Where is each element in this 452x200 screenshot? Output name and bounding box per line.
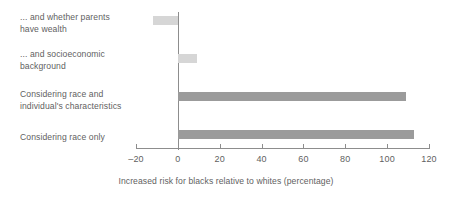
bar-race-only	[178, 130, 414, 139]
bar-chart: ... and whether parents have wealth ... …	[0, 0, 452, 200]
x-axis-tick-label: 20	[200, 154, 240, 164]
bar-socioeconomic-background	[178, 54, 197, 63]
x-axis-tick-label: –20	[116, 154, 156, 164]
x-axis-tick-label: 100	[367, 154, 407, 164]
x-axis-line	[136, 148, 429, 149]
x-axis-tick	[345, 144, 346, 149]
x-axis-tick	[136, 144, 137, 149]
x-axis-tick	[178, 144, 179, 149]
category-label-socioeconomic-background: ... and socioeconomic background	[20, 49, 150, 72]
x-axis-tick	[303, 144, 304, 149]
x-axis-tick-label: 60	[283, 154, 323, 164]
x-axis-tick-label: 120	[409, 154, 449, 164]
x-axis-tick	[220, 144, 221, 149]
x-axis-tick-label: 0	[158, 154, 198, 164]
x-axis-tick-label: 40	[242, 154, 282, 164]
bar-race-and-characteristics	[178, 92, 406, 101]
x-axis-caption: Increased risk for blacks relative to wh…	[0, 176, 452, 186]
category-label-race-only: Considering race only	[20, 132, 150, 144]
x-axis-tick	[262, 144, 263, 149]
bar-parents-wealth	[153, 16, 178, 25]
category-label-race-and-characteristics: Considering race and individual's charac…	[20, 89, 150, 112]
x-axis-tick	[429, 144, 430, 149]
plot-area	[136, 8, 429, 148]
category-label-parents-wealth: ... and whether parents have wealth	[20, 12, 150, 35]
x-axis-tick	[387, 144, 388, 149]
x-axis-tick-label: 80	[325, 154, 365, 164]
